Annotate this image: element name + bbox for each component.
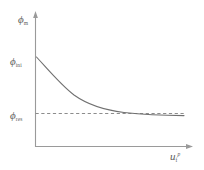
plot-canvas: [0, 0, 204, 170]
figure-container: ϕm ϕini ϕres ufp: [0, 0, 204, 170]
phi-res-subscript: res: [16, 116, 23, 122]
phi-decay-curve: [37, 57, 185, 116]
y-axis-arrow-icon: [33, 11, 38, 18]
x-axis-label-uf-p: ufp: [170, 147, 180, 164]
y-tick-label-phi-ini: ϕini: [10, 52, 22, 69]
u-superscript: p: [177, 151, 180, 157]
y-tick-label-phi-res: ϕres: [10, 106, 22, 123]
u-subscript: f: [176, 157, 178, 163]
x-axis-arrow-icon: [186, 144, 193, 149]
phi-ini-subscript: ini: [16, 62, 22, 68]
y-axis-label-phi-m: ϕm: [18, 10, 28, 27]
phi-m-subscript: m: [24, 20, 28, 26]
